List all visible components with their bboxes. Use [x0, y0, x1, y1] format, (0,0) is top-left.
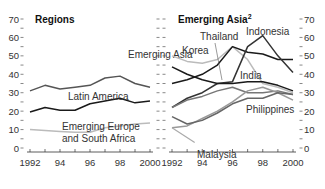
- y-tick-label: 20: [304, 106, 315, 117]
- annotation-label: Malaysia: [197, 149, 237, 160]
- chart-canvas: Regions 19929496982000010203040506070Eme…: [0, 0, 325, 189]
- y-tick-label: 0: [14, 143, 19, 154]
- y-tick-label: 60: [8, 32, 19, 43]
- annotation-label: Korea: [182, 45, 209, 56]
- series-line-emerging-asia: [30, 76, 150, 91]
- y-tick-label: 50: [8, 50, 19, 61]
- y-tick-label: 20: [8, 106, 19, 117]
- annotation-label: Thailand: [200, 31, 238, 42]
- y-tick-label: 30: [304, 87, 315, 98]
- y-tick-label: 50: [304, 50, 315, 61]
- y-tick-label: 70: [304, 14, 315, 25]
- y-tick-label: 10: [8, 124, 19, 135]
- y-tick-label: 40: [304, 69, 315, 80]
- y-tick-label: 40: [8, 69, 19, 80]
- x-tick-label: 1992: [19, 157, 40, 168]
- y-tick-label: 60: [304, 32, 315, 43]
- left-panel-title: Regions: [35, 14, 75, 25]
- left-panel: Regions 19929496982000010203040506070Eme…: [8, 14, 192, 169]
- y-tick-label: 70: [8, 14, 19, 25]
- annotation-label: and South Africa: [62, 133, 136, 144]
- y-tick-label: 0: [304, 143, 309, 154]
- x-tick-label: 98: [257, 157, 268, 168]
- annotation-label: Philippines: [246, 104, 294, 115]
- annotation-label: Emerging Europe: [62, 121, 140, 132]
- x-tick-label: 1992: [161, 157, 182, 168]
- y-tick-label: 10: [304, 124, 315, 135]
- y-tick-label: 30: [8, 87, 19, 98]
- x-tick-label: 98: [115, 157, 126, 168]
- right-panel-title: Emerging Asia2: [178, 13, 252, 25]
- x-tick-label: 2000: [282, 157, 303, 168]
- series-line-malaysia-drop: [172, 128, 195, 143]
- right-panel: Emerging Asia2 1992949698200001020304050…: [161, 13, 314, 168]
- x-tick-label: 96: [85, 157, 96, 168]
- annotation-label: Indonesia: [246, 26, 290, 37]
- annotation-label: Latin America: [68, 91, 129, 102]
- annotation-label: India: [240, 70, 262, 81]
- x-tick-label: 2000: [139, 157, 160, 168]
- x-tick-label: 94: [55, 157, 66, 168]
